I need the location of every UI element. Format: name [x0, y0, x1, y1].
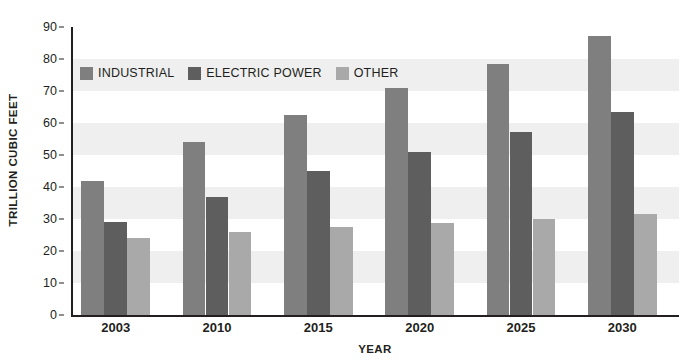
legend-item-industrial[interactable]: INDUSTRIAL: [80, 66, 174, 80]
y-axis-tick-0: 0: [50, 308, 57, 322]
y-axis-tick-mark: [59, 219, 64, 220]
bar-industrial-2025: [487, 64, 510, 315]
bar-electric-power-2010: [206, 197, 229, 315]
x-axis-tick-2015: 2015: [304, 320, 333, 335]
bar-other-2025: [533, 219, 556, 315]
y-axis-tick-mark: [59, 27, 64, 28]
bar-industrial-2020: [385, 88, 408, 315]
bar-other-2010: [229, 232, 252, 315]
x-axis-line: [71, 315, 679, 317]
y-axis-title-text: TRILLION CUBIC FEET: [7, 94, 19, 227]
y-axis-tick-mark: [59, 251, 64, 252]
bar-industrial-2003: [81, 181, 104, 315]
bar-other-2015: [330, 227, 353, 315]
legend-label: OTHER: [354, 66, 399, 80]
bar-other-2030: [634, 214, 657, 315]
y-axis-tick-mark: [59, 315, 64, 316]
y-axis-tick-labels: 0102030405060708090: [26, 27, 64, 315]
y-axis-tick-mark: [59, 187, 64, 188]
x-axis-tick-2030: 2030: [608, 320, 637, 335]
legend-swatch-icon: [336, 67, 349, 80]
x-axis-tick-labels: 200320102015202020252030: [71, 320, 679, 340]
bar-chart: TRILLION CUBIC FEET 0102030405060708090 …: [0, 0, 681, 363]
y-axis-tick-20: 20: [43, 244, 57, 258]
legend-label: ELECTRIC POWER: [206, 66, 321, 80]
y-axis-tick-mark: [59, 123, 64, 124]
y-axis-tick-60: 60: [43, 116, 57, 130]
y-axis-tick-30: 30: [43, 212, 57, 226]
legend-label: INDUSTRIAL: [98, 66, 174, 80]
legend-swatch-icon: [80, 67, 93, 80]
y-axis-tick-70: 70: [43, 84, 57, 98]
y-axis-tick-mark: [59, 155, 64, 156]
bar-industrial-2030: [588, 36, 611, 315]
bar-group-2030: [588, 27, 657, 315]
legend-item-electric-power[interactable]: ELECTRIC POWER: [188, 66, 321, 80]
bar-other-2020: [431, 223, 454, 315]
bar-electric-power-2020: [408, 152, 431, 315]
bar-electric-power-2015: [307, 171, 330, 315]
x-axis-tick-2020: 2020: [405, 320, 434, 335]
y-axis-tick-mark: [59, 283, 64, 284]
y-axis-tick-50: 50: [43, 148, 57, 162]
y-axis-line: [71, 27, 73, 316]
y-axis-tick-mark: [59, 91, 64, 92]
y-axis-tick-80: 80: [43, 52, 57, 66]
bar-electric-power-2030: [611, 112, 634, 315]
y-axis-tick-40: 40: [43, 180, 57, 194]
chart-legend: INDUSTRIALELECTRIC POWEROTHER: [80, 66, 398, 80]
bar-industrial-2010: [183, 142, 206, 315]
y-axis-tick-90: 90: [43, 20, 57, 34]
legend-item-other[interactable]: OTHER: [336, 66, 399, 80]
x-axis-tick-2003: 2003: [101, 320, 130, 335]
x-axis-title: YEAR: [71, 343, 679, 355]
bar-other-2003: [127, 238, 150, 315]
y-axis-title: TRILLION CUBIC FEET: [0, 0, 26, 320]
x-axis-tick-2010: 2010: [203, 320, 232, 335]
bar-industrial-2015: [284, 115, 307, 315]
bar-group-2025: [487, 27, 556, 315]
bar-electric-power-2025: [510, 132, 533, 315]
y-axis-tick-mark: [59, 59, 64, 60]
x-axis-tick-2025: 2025: [507, 320, 536, 335]
bar-electric-power-2003: [104, 222, 127, 315]
y-axis-tick-10: 10: [43, 276, 57, 290]
legend-swatch-icon: [188, 67, 201, 80]
